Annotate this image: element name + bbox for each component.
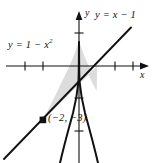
intersection-point-label: (−2, −3) [48, 113, 87, 124]
point-marker [40, 117, 47, 124]
y-axis-label: y [85, 8, 90, 18]
y-axis-arrowhead [76, 11, 83, 20]
parabola-label-exponent: 2 [49, 37, 53, 45]
graph-canvas [0, 0, 152, 163]
graph-figure: y = 1 − x2 y = x − 1 (−2, −3) x y [0, 0, 152, 163]
shaded-region-fill [43, 41, 97, 120]
line-equation-label: y = x − 1 [95, 10, 136, 21]
x-axis-label: x [140, 70, 145, 80]
parabola-label-eq: = 1 − [13, 39, 44, 50]
parabola-equation-label: y = 1 − x2 [8, 38, 53, 50]
